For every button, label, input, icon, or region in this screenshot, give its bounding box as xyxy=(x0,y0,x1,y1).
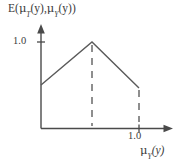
y-axis xyxy=(37,24,45,129)
x-axis-label-arg: (y) xyxy=(152,144,165,156)
y-tick-label-1: 1.0 xyxy=(13,36,26,47)
x-axis-label-subscript: Y xyxy=(147,152,151,161)
x-tick-label-1: 1.0 xyxy=(128,131,141,142)
data-series-line xyxy=(41,42,139,88)
plot-area xyxy=(0,0,186,162)
figure-container: E(μT(y),μY(y)) 1.0 1.0 μY(y) xyxy=(0,0,186,162)
x-axis-label: μY(y) xyxy=(140,145,164,159)
x-axis xyxy=(41,125,173,133)
